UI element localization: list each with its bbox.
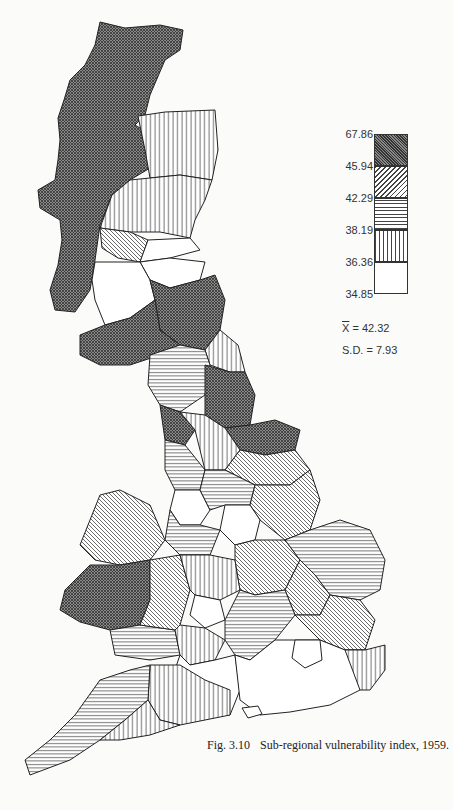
- legend-class-2: [374, 166, 408, 198]
- region-notts: [220, 505, 260, 545]
- legend-break-2: 42.29: [345, 192, 373, 204]
- sd-value: S.D. = 7.93: [342, 344, 397, 356]
- region-birmingham: [190, 595, 225, 628]
- region-grampian: [138, 110, 218, 180]
- mean-symbol: X: [342, 322, 349, 334]
- legend-class-3: [374, 198, 408, 230]
- legend-break-0: 67.86: [345, 128, 373, 140]
- legend-class-5: [374, 262, 408, 294]
- mean-stat: X = 42.32: [342, 322, 389, 334]
- figure-number: Fig. 3.10: [207, 738, 250, 752]
- region-durham: [205, 365, 255, 428]
- figure-caption: Fig. 3.10Sub-regional vulnerability inde…: [207, 738, 453, 753]
- region-cumbria: [148, 345, 210, 412]
- region-mid-wales: [60, 560, 150, 630]
- mean-value: = 42.32: [352, 322, 389, 334]
- region-north-wales: [80, 490, 165, 565]
- legend-break-3: 38.19: [345, 224, 373, 236]
- legend-break-4: 36.36: [345, 256, 373, 268]
- sd-stat: S.D. = 7.93: [342, 344, 397, 356]
- region-lancs: [160, 405, 195, 445]
- figure-title: Sub-regional vulnerability index, 1959.: [260, 738, 449, 752]
- region-central: [100, 228, 148, 262]
- legend-break-1: 45.94: [345, 160, 373, 172]
- region-isle-of-wight: [242, 706, 262, 718]
- legend-break-5: 34.85: [345, 288, 373, 300]
- region-south-wales: [110, 625, 180, 660]
- legend-class-1: [374, 134, 408, 166]
- legend-class-4: [374, 230, 408, 262]
